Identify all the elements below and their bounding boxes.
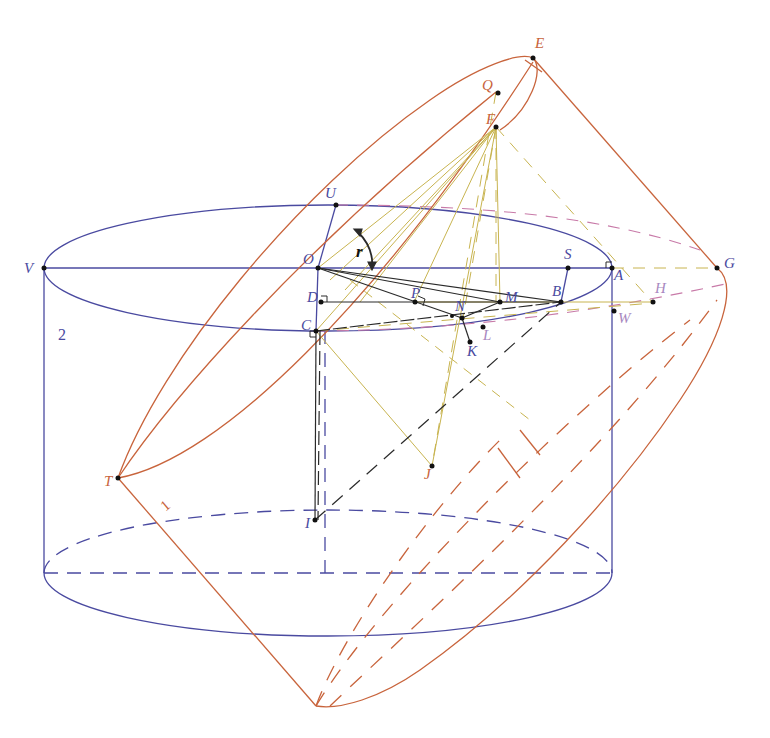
label-U: U [325, 185, 337, 201]
segment-CI-dashed [318, 331, 320, 520]
label-M: M [504, 289, 519, 305]
segment-OM [318, 268, 500, 302]
label-K: K [466, 343, 478, 359]
label-V: V [24, 260, 35, 276]
label-P: P [410, 285, 420, 301]
inclined-plane [118, 57, 727, 707]
label-Q: Q [482, 77, 493, 93]
label-W: W [618, 310, 632, 326]
label-B: B [552, 283, 561, 299]
label-r: r [356, 242, 363, 261]
label-I: I [304, 515, 311, 531]
plane-ellipse-right [316, 268, 727, 707]
cylinder-bottom-back [44, 510, 612, 573]
plane-ellipse-upper [118, 57, 533, 478]
edge-EG [533, 58, 717, 268]
height-label: 2 [58, 326, 66, 343]
label-C: C [301, 317, 312, 333]
label-S: S [564, 246, 572, 262]
plane-ellipse-lower [500, 58, 537, 130]
plane-dashed-2 [330, 300, 717, 706]
segment-ON [318, 268, 462, 318]
label-H: H [654, 280, 667, 296]
points [42, 56, 720, 523]
point-labels: O U V A S G H W B M N P D C K L E Q F T … [24, 35, 735, 531]
label-J: J [424, 466, 432, 482]
label-E: E [534, 35, 544, 51]
segment-OU [318, 205, 336, 268]
label-A: A [613, 267, 624, 283]
segment-label: 1 [157, 497, 173, 514]
segment-CI [315, 331, 316, 520]
segment-I-B [315, 302, 561, 520]
label-L: L [482, 327, 491, 343]
label-D: D [306, 289, 318, 305]
label-T: T [104, 473, 114, 489]
label-N: N [454, 298, 466, 314]
label-O: O [303, 251, 314, 267]
edge-TI [118, 478, 316, 706]
segment-SB [561, 268, 568, 302]
segment-NK [462, 318, 470, 342]
geometry-diagram: O U V A S G H W B M N P D C K L E Q F T … [0, 0, 770, 738]
plane-dashed-1 [316, 320, 690, 706]
segment-OB [318, 268, 561, 302]
label-G: G [724, 255, 735, 271]
cylinder-bottom-front [44, 573, 612, 636]
label-F: F [485, 111, 496, 127]
